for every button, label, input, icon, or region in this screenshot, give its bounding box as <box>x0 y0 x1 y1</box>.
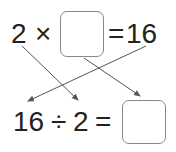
math-diagram: 2 × = 16 16 ÷ 2 = <box>0 0 176 152</box>
top-equals: = <box>108 20 124 48</box>
bottom-dividend: 16 <box>13 108 44 136</box>
divide-sign: ÷ <box>51 108 66 136</box>
top-factor: 2 <box>11 20 27 48</box>
bottom-answer-box[interactable] <box>122 100 166 144</box>
top-answer-box[interactable] <box>60 11 104 57</box>
bottom-divisor: 2 <box>73 108 89 136</box>
times-sign: × <box>35 20 51 48</box>
bottom-equals: = <box>95 108 111 136</box>
arrow-box <box>84 58 140 96</box>
top-result: 16 <box>126 20 157 48</box>
